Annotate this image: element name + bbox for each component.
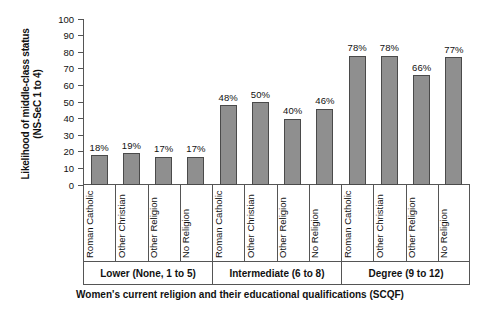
bar-value-label: 50% bbox=[251, 89, 270, 100]
bar-slot: 19% bbox=[118, 140, 146, 185]
bar-slot: 48% bbox=[214, 92, 242, 185]
bar-slot: 17% bbox=[150, 143, 178, 185]
bar bbox=[445, 57, 462, 185]
y-axis-tick-label: 60 bbox=[63, 80, 83, 91]
y-axis-tick-label: 40 bbox=[63, 113, 83, 124]
x-axis-category-label: Other Religion bbox=[149, 197, 159, 258]
y-axis-tick: 30 bbox=[0, 130, 83, 141]
bar bbox=[155, 157, 172, 185]
y-axis-tick: 60 bbox=[0, 80, 83, 91]
x-axis-category-label: No Religion bbox=[439, 209, 449, 258]
x-axis-category-cell: Roman Catholic bbox=[341, 185, 373, 262]
bar-value-label: 66% bbox=[412, 62, 431, 73]
bar-value-label: 48% bbox=[219, 92, 238, 103]
x-axis-category-cell: Other Christian bbox=[373, 185, 405, 262]
bar-slot: 50% bbox=[247, 89, 275, 186]
y-axis-tick: 20 bbox=[0, 146, 83, 157]
y-axis-tick-label: 80 bbox=[63, 47, 83, 58]
bar-value-label: 19% bbox=[122, 140, 141, 151]
bar-value-label: 17% bbox=[154, 143, 173, 154]
x-axis-group-label: Intermediate (6 to 8) bbox=[229, 268, 324, 279]
y-axis-tick: 10 bbox=[0, 163, 83, 174]
x-axis-category-label: Other Christian bbox=[375, 194, 385, 258]
x-axis-category-cell: Roman Catholic bbox=[83, 185, 115, 262]
bar-slot: 46% bbox=[311, 95, 339, 185]
bar-value-label: 40% bbox=[283, 105, 302, 116]
bar-chart: Likelihood of middle-class status (NS-Se… bbox=[0, 0, 480, 322]
x-axis-category-label: Other Religion bbox=[407, 197, 417, 258]
y-axis-tick: 50 bbox=[0, 97, 83, 108]
bar-value-label: 17% bbox=[186, 143, 205, 154]
y-axis-tick: 100 bbox=[0, 14, 83, 25]
y-axis-tick-label: 30 bbox=[63, 130, 83, 141]
y-axis-tick-label: 50 bbox=[63, 97, 83, 108]
x-axis-category-cell: Roman Catholic bbox=[212, 185, 244, 262]
bar-value-label: 78% bbox=[380, 42, 399, 53]
bar-slot: 18% bbox=[85, 142, 113, 185]
x-axis-category-cell: No Religion bbox=[309, 185, 341, 262]
x-axis-category-cell: No Religion bbox=[438, 185, 470, 262]
x-axis-category-cell: Other Religion bbox=[148, 185, 180, 262]
x-axis-category-cell: Other Religion bbox=[277, 185, 309, 262]
x-axis-group-cell: Degree (9 to 12) bbox=[341, 262, 470, 285]
y-axis-ticks: 1009080706050403020100 bbox=[0, 0, 83, 185]
x-axis-category-label: Roman Catholic bbox=[214, 190, 224, 258]
y-axis-tick-label: 70 bbox=[63, 63, 83, 74]
bar-slot: 40% bbox=[279, 105, 307, 185]
x-axis-category-label: Other Christian bbox=[117, 194, 127, 258]
x-axis-group-cell: Lower (None, 1 to 5) bbox=[83, 262, 212, 285]
bar bbox=[187, 157, 204, 185]
x-axis-category-cell: No Religion bbox=[180, 185, 212, 262]
x-axis-group-label: Lower (None, 1 to 5) bbox=[100, 268, 196, 279]
x-axis-title: Women's current religion and their educa… bbox=[0, 289, 480, 300]
x-axis-category-label: Roman Catholic bbox=[85, 190, 95, 258]
bar bbox=[349, 56, 366, 185]
y-axis-tick-label: 0 bbox=[69, 180, 83, 191]
bar-slot: 17% bbox=[182, 143, 210, 185]
y-axis-tick: 80 bbox=[0, 47, 83, 58]
bar bbox=[123, 153, 140, 185]
bar-value-label: 46% bbox=[315, 95, 334, 106]
x-axis-category-label: Other Christian bbox=[246, 194, 256, 258]
bar-series: 18%19%17%17%48%50%40%46%78%78%66%77% bbox=[83, 19, 470, 185]
y-axis-tick-label: 20 bbox=[63, 146, 83, 157]
bar bbox=[91, 155, 108, 185]
bar-slot: 66% bbox=[408, 62, 436, 185]
y-axis-tick-label: 100 bbox=[58, 14, 83, 25]
x-axis-category-label: Other Religion bbox=[278, 197, 288, 258]
y-axis-tick: 70 bbox=[0, 63, 83, 74]
y-axis-tick-label: 10 bbox=[63, 163, 83, 174]
x-axis-category-label: Roman Catholic bbox=[343, 190, 353, 258]
bar-value-label: 77% bbox=[444, 44, 463, 55]
bar bbox=[220, 105, 237, 185]
bar bbox=[252, 102, 269, 185]
x-axis-group-label: Degree (9 to 12) bbox=[368, 268, 443, 279]
bar-slot: 77% bbox=[440, 44, 468, 185]
y-axis-tick: 40 bbox=[0, 113, 83, 124]
bar-value-label: 78% bbox=[348, 42, 367, 53]
x-axis-group-labels: Lower (None, 1 to 5)Intermediate (6 to 8… bbox=[83, 262, 470, 285]
y-axis-tick-label: 90 bbox=[63, 30, 83, 41]
y-axis-tick: 90 bbox=[0, 30, 83, 41]
x-axis-category-cell: Other Religion bbox=[406, 185, 438, 262]
x-axis-group-cell: Intermediate (6 to 8) bbox=[212, 262, 341, 285]
x-axis-category-cell: Other Christian bbox=[244, 185, 276, 262]
x-axis-category-cell: Other Christian bbox=[115, 185, 147, 262]
bar-slot: 78% bbox=[343, 42, 371, 185]
y-axis-tick: 0 bbox=[0, 180, 83, 191]
x-axis-category-labels: Roman CatholicOther ChristianOther Relig… bbox=[83, 185, 470, 262]
x-axis-category-label: No Religion bbox=[181, 209, 191, 258]
bar-value-label: 18% bbox=[90, 142, 109, 153]
bar bbox=[381, 56, 398, 185]
bar bbox=[284, 119, 301, 185]
bar bbox=[413, 75, 430, 185]
x-axis-category-label: No Religion bbox=[310, 209, 320, 258]
bar bbox=[316, 109, 333, 185]
bar-slot: 78% bbox=[376, 42, 404, 185]
